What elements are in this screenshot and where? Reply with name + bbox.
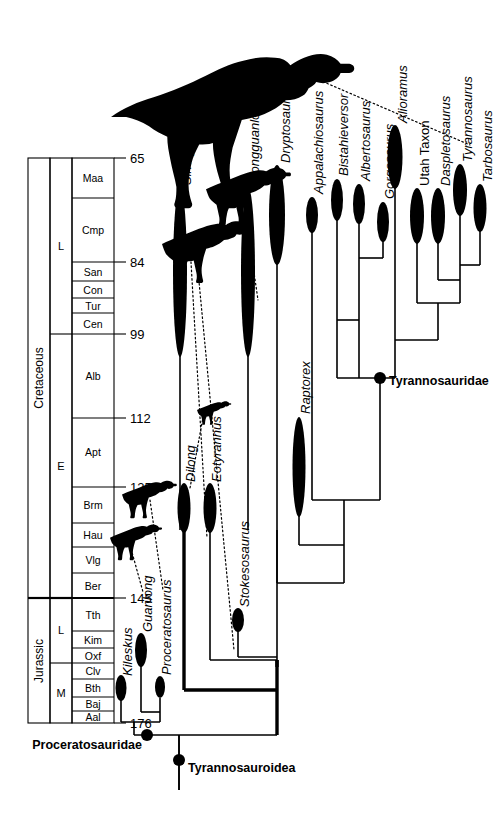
stage-label-vlg: Vlg [85,554,100,566]
range-bar-bistahieversor [331,179,343,221]
clade-label-tyrannosauridae: Tyrannosauridae [389,374,489,388]
epoch-label-middle-jurassic: M [56,687,65,699]
stage-label-aal: Aal [85,711,100,723]
range-bar-appalachiosaurus [306,197,318,233]
taxon-label-albertosaurus: Albertosaurus [358,100,373,182]
figure-canvas: Cretaceous Jurassic L E L M [0,0,504,823]
taxon-label-tyrannosaurus: Tyrannosaurus [460,76,475,162]
range-bar-guanlong [135,633,147,667]
taxon-label-tarbosaurus: Tarbosaurus [480,110,495,182]
taxon-label-appalachiosaurus: Appalachiosaurus [311,90,326,195]
taxon-label-kileskus: Kileskus [120,627,135,676]
leader-eotyrannus [190,245,207,538]
epoch-label-early-cretaceous: E [57,460,64,472]
epoch-label-late-cretaceous: L [58,240,64,252]
taxon-label-stokesosaurus: Stokesosaurus [237,521,252,607]
period-column-frame [28,158,50,723]
taxon-label-dilong: Dilong [183,444,198,482]
stage-label-oxf: Oxf [85,650,101,662]
stage-label-baj: Baj [85,698,100,710]
taxon-label-gorgosaurus: Gorgosaurus [382,123,397,199]
stage-label-ber: Ber [85,580,102,592]
stage-label-bth: Bth [85,682,101,694]
stage-label-san: San [84,266,103,278]
stage-label-kim: Kim [84,634,102,646]
clade-label-tyrannosauroidea: Tyrannosauroidea [188,761,296,775]
stage-label-cmp: Cmp [82,224,104,236]
node-dot-tyrannosauridae [374,372,386,384]
range-bar-eotyrannus [204,483,217,533]
range-bar-dilong [178,483,191,533]
stage-label-clv: Clv [85,665,101,677]
stage-label-hau: Hau [83,529,102,541]
period-label-jurassic: Jurassic [32,639,46,683]
clade-label-proceratosauridae: Proceratosauridae [32,738,142,752]
stage-label-brm: Brm [83,499,103,511]
range-bar-proceratosaurus [155,676,165,698]
range-bar-utah-taxon [410,188,424,244]
stage-label-tur: Tur [85,300,101,312]
tick-label-112: 112 [130,411,151,426]
stage-label-cen: Cen [83,318,102,330]
range-bar-tyrannosaurus [453,164,467,216]
range-bar-daspletosaurus [431,188,445,244]
period-label-cretaceous: Cretaceous [32,347,46,408]
taxon-label-daspletosaurus: Daspletosaurus [438,95,453,186]
taxon-label-guanlong: Guanlong [140,575,155,632]
range-bar-kileskus [116,675,127,701]
taxon-label-proceratosaurus: Proceratosaurus [159,579,174,675]
range-bar-tarbosaurus [474,184,487,232]
range-bar-stokesosaurus [232,608,244,632]
stage-label-maa: Maa [83,172,104,184]
stage-label-alb: Alb [85,370,100,382]
taxon-label-raptorex: Raptorex [298,361,313,414]
taxon-label-utah-taxon: Utah Taxon [417,120,432,186]
phylogeny-figure: Cretaceous Jurassic L E L M [0,0,504,823]
stage-label-apt: Apt [85,446,101,458]
node-dot-proceratosauridae [141,729,153,741]
tick-label-84: 84 [130,255,144,270]
epoch-label-late-jurassic: L [58,624,64,636]
stage-label-tth: Tth [85,609,100,621]
range-bar-raptorex [293,417,306,517]
range-bar-albertosaurus [353,184,365,224]
range-bar-gorgosaurus [377,202,389,242]
taxon-label-bistahieversor: Bistahieversor [336,93,351,176]
tick-label-99: 99 [130,327,144,342]
tick-label-65: 65 [130,151,144,166]
stage-label-con: Con [83,284,102,296]
taxon-label-eotyrannus: Eotyrannus [209,416,224,482]
